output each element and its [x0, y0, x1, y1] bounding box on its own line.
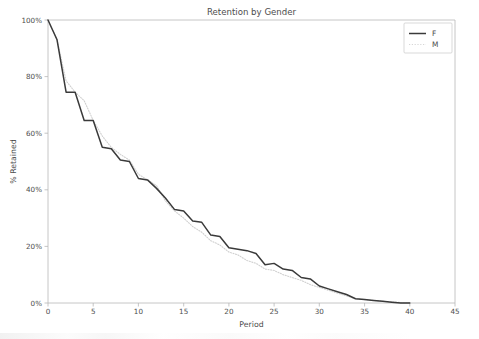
chart-legend: F M [404, 23, 452, 53]
legend-label-m: M [432, 40, 438, 49]
y-tick-label: 60% [26, 129, 42, 138]
x-tick-label: 10 [134, 307, 144, 316]
legend-label-f: F [432, 29, 436, 38]
legend-frame [404, 23, 452, 53]
x-tick-label: 0 [46, 307, 51, 316]
y-tick-label: 20% [26, 242, 42, 251]
y-tick-label: 40% [26, 185, 42, 194]
x-tick-label: 35 [360, 307, 369, 316]
y-tick-label: 0% [31, 299, 43, 308]
x-tick-label: 25 [270, 307, 279, 316]
y-axis-title: % Retained [9, 139, 18, 183]
chart-figure: 0 5 10 15 20 25 30 35 40 45 0% 20% 40% 6… [0, 0, 479, 339]
y-tick-label: 100% [21, 16, 42, 25]
x-tick-label: 40 [405, 307, 415, 316]
y-tick-label: 80% [26, 72, 42, 81]
chart-title: Retention by Gender [207, 7, 297, 17]
x-tick-label: 45 [450, 307, 459, 316]
x-axis-title: Period [239, 320, 263, 329]
x-tick-label: 5 [91, 307, 96, 316]
retention-line-chart: 0 5 10 15 20 25 30 35 40 45 0% 20% 40% 6… [0, 0, 479, 339]
x-tick-label: 30 [315, 307, 325, 316]
x-tick-label: 15 [179, 307, 188, 316]
x-tick-label: 20 [224, 307, 234, 316]
